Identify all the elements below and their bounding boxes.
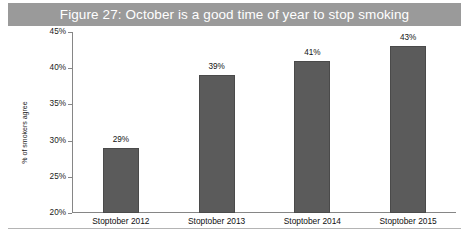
bar[interactable] xyxy=(199,75,235,213)
y-axis-tick-mark xyxy=(68,213,72,214)
y-axis-tick-mark xyxy=(68,32,72,33)
bar-slot: 39% xyxy=(169,32,265,213)
y-axis-tick-mark xyxy=(68,68,72,69)
bar-value-label: 29% xyxy=(113,136,129,144)
x-axis-category-label: Stoptober 2012 xyxy=(92,217,149,225)
y-axis-tick-labels: 45%40%35%30%25%20% xyxy=(38,27,66,223)
bar[interactable] xyxy=(103,148,139,213)
x-axis-category-label: Stoptober 2015 xyxy=(379,217,436,225)
y-axis-tick-label: 45% xyxy=(38,28,66,36)
figure-title-band: Figure 27: October is a good time of yea… xyxy=(8,3,461,26)
bar[interactable] xyxy=(390,46,426,213)
y-axis-tick-label: 25% xyxy=(38,173,66,181)
chart-plot-region: % of smokers agree 45%40%35%30%25%20% 29… xyxy=(0,27,469,223)
bar-value-label: 43% xyxy=(400,34,416,42)
x-axis-category-label: Stoptober 2013 xyxy=(188,217,245,225)
x-axis-category-label: Stoptober 2014 xyxy=(284,217,341,225)
y-axis-tick-label: 20% xyxy=(38,209,66,217)
y-axis-tick-mark xyxy=(68,104,72,105)
bottom-divider xyxy=(8,228,461,229)
y-axis-tick-label: 35% xyxy=(38,100,66,108)
y-axis-title: % of smokers agree xyxy=(21,88,28,178)
x-axis-category-labels: Stoptober 2012Stoptober 2013Stoptober 20… xyxy=(73,217,456,235)
bar-slot: 41% xyxy=(265,32,361,213)
bar-slot: 29% xyxy=(73,32,169,213)
bar-value-label: 39% xyxy=(208,63,224,71)
y-axis-tick-mark xyxy=(68,141,72,142)
bars-area: 29%39%41%43% xyxy=(73,32,456,213)
figure-title: Figure 27: October is a good time of yea… xyxy=(60,8,409,22)
bar[interactable] xyxy=(294,61,330,213)
bar-slot: 43% xyxy=(360,32,456,213)
y-axis-tick-label: 40% xyxy=(38,64,66,72)
y-axis-tick-label: 30% xyxy=(38,137,66,145)
figure-container: Figure 27: October is a good time of yea… xyxy=(0,0,469,238)
y-axis-tick-mark xyxy=(68,177,72,178)
bar-value-label: 41% xyxy=(304,49,320,57)
